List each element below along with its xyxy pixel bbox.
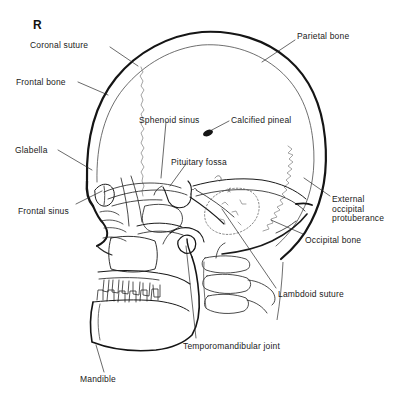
leader-tmj: [186, 246, 196, 338]
upper-tooth-2: [112, 280, 119, 293]
cervical-spine-group: [202, 243, 275, 313]
vertebra-c1: [202, 256, 250, 273]
mandible-ramus-posterior: [187, 239, 192, 257]
label-external-occipital-protuberance: External occipital protuberance: [332, 195, 384, 224]
skull-base-group: [104, 176, 312, 254]
mandible-alveolar-ridge: [93, 300, 189, 311]
mastoid-cell-detail-b: [232, 211, 238, 215]
greater-wing-sphenoid: [131, 176, 142, 222]
mastoid-air-cells: [205, 188, 260, 234]
label-calcified-pineal: Calcified pineal: [231, 116, 291, 126]
mandible-inner-cortex: [98, 304, 100, 340]
leader-coronal-suture: [110, 47, 138, 66]
upper-tooth-4: [133, 282, 140, 295]
anterior-clinoid: [154, 186, 162, 195]
outer-table-vault: [87, 32, 326, 259]
external-occipital-protuberance: [296, 203, 312, 205]
side-marker-right: R: [33, 18, 42, 32]
frontal-sinus-septum: [104, 186, 105, 205]
frontal-bone-margin: [87, 181, 93, 206]
leader-parietal-bone: [262, 40, 295, 62]
planum-sphenoidale: [112, 200, 162, 206]
dorsum-sellae: [188, 181, 191, 194]
mastoid-cell-detail-e: [238, 222, 241, 225]
label-lambdoid-suture: Lambdoid suture: [278, 290, 344, 300]
sphenoid-sinus-outline: [142, 204, 182, 232]
upper-tooth-3: [122, 281, 129, 294]
inner-table-vault: [97, 45, 314, 246]
leader-frontal-bone: [78, 82, 108, 95]
vertebra-c3: [204, 294, 248, 313]
upper-tooth-5: [143, 283, 150, 296]
hard-palate-lower: [99, 278, 159, 280]
zygomatic-arch-lower: [138, 231, 183, 235]
vertebra-c2-body: [203, 274, 251, 293]
maxillary-sinus: [109, 236, 158, 272]
cranial-vault-group: [87, 32, 326, 259]
c3-posterior-elements: [247, 300, 267, 313]
leader-calcified-pineal: [210, 121, 229, 131]
label-pituitary-fossa: Pituitary fossa: [171, 158, 227, 168]
hard-palate: [98, 271, 190, 284]
leader-sphenoid-sinus: [161, 122, 166, 178]
label-sphenoid-sinus: Sphenoid sinus: [139, 116, 200, 126]
lower-tooth-6: [151, 289, 158, 300]
coronal-suture-line: [140, 67, 144, 196]
skull-diagram-figure: Coronal sutureParietal boneFrontal boneS…: [0, 0, 396, 406]
label-temporomandibular-joint: Temporomandibular joint: [183, 342, 280, 352]
nasal-bridge: [97, 246, 112, 255]
leader-lines-group: [58, 40, 330, 372]
anterior-fossa-floor: [108, 190, 187, 199]
label-frontal-sinus: Frontal sinus: [18, 207, 69, 217]
label-glabella: Glabella: [15, 146, 48, 156]
mastoid-cell-detail-a: [222, 202, 228, 205]
facial-skeleton-group: [91, 223, 204, 350]
petrous-ridge-upper: [193, 179, 306, 199]
lower-tooth-1: [97, 290, 103, 300]
label-coronal-suture: Coronal suture: [30, 41, 88, 51]
lambdoid-suture-line: [263, 146, 293, 231]
label-parietal-bone: Parietal bone: [297, 32, 349, 42]
clivus: [190, 197, 224, 224]
upper-tooth-6: [153, 285, 160, 297]
label-frontal-bone: Frontal bone: [16, 78, 66, 88]
leader-lambdoid-suture: [222, 209, 276, 288]
lower-tooth-2: [107, 290, 114, 301]
leader-eop: [304, 178, 330, 196]
leader-mandible: [96, 345, 104, 372]
label-occipital-bone: Occipital bone: [305, 236, 361, 246]
ethmoid-region: [100, 211, 119, 215]
label-mandible: Mandible: [80, 375, 116, 385]
mastoid-cell-detail-d: [240, 200, 246, 204]
